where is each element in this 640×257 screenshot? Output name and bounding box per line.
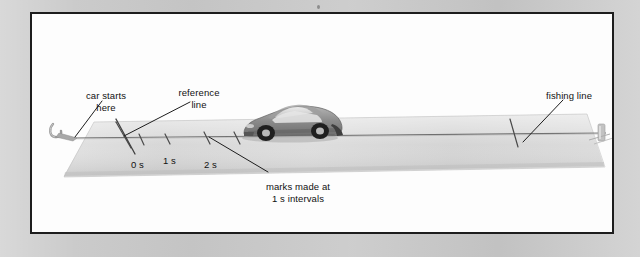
figure-frame: car starts here reference line fishing l… bbox=[30, 12, 614, 234]
figure-canvas: car starts here reference line fishing l… bbox=[32, 14, 612, 232]
label-reference-line-line2: line bbox=[178, 99, 219, 111]
label-car-starts-here-line1: car starts bbox=[86, 90, 126, 102]
label-reference-line: reference line bbox=[178, 87, 219, 110]
screenshot-root: car starts here reference line fishing l… bbox=[0, 0, 640, 257]
label-marks-made-at: marks made at 1 s intervals bbox=[266, 181, 330, 204]
label-marks-made-at-line2: 1 s intervals bbox=[266, 193, 330, 205]
label-reference-line-line1: reference bbox=[178, 87, 219, 99]
toy-car bbox=[242, 105, 343, 143]
time-label-2s: 2 s bbox=[204, 159, 217, 171]
hook-icon bbox=[50, 124, 77, 141]
time-label-1s: 1 s bbox=[163, 155, 176, 167]
time-label-0s: 0 s bbox=[131, 159, 144, 171]
label-fishing-line-text: fishing line bbox=[546, 90, 592, 102]
label-car-starts-here-line2: here bbox=[86, 102, 126, 114]
dust-speck-icon bbox=[317, 5, 320, 9]
label-car-starts-here: car starts here bbox=[86, 90, 126, 113]
label-fishing-line: fishing line bbox=[546, 90, 592, 102]
label-marks-made-at-line1: marks made at bbox=[266, 181, 330, 193]
